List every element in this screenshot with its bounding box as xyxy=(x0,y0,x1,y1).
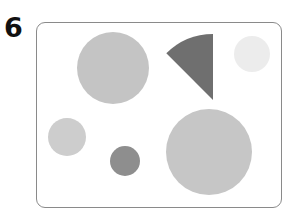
small-dark-circle xyxy=(110,146,140,176)
large-circle-top-left xyxy=(77,32,149,104)
shapes-canvas xyxy=(0,0,292,220)
dark-wedge xyxy=(166,34,213,100)
large-circle-bottom-right xyxy=(166,109,252,195)
medium-circle-left xyxy=(48,118,86,156)
faint-circle-top-right xyxy=(234,36,270,72)
